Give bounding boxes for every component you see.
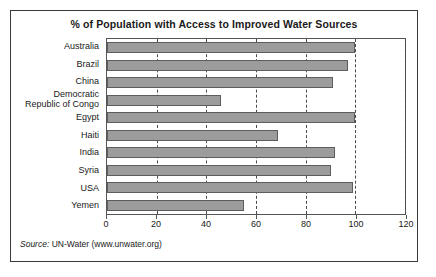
x-tick-label-100: 100 <box>348 219 363 229</box>
gridline-120 <box>405 39 406 214</box>
bar-row <box>107 92 405 110</box>
y-label-brazil: Brazil <box>11 56 103 74</box>
bar-australia <box>107 42 355 53</box>
x-tick-label-20: 20 <box>151 219 161 229</box>
y-label-australia: Australia <box>11 38 103 56</box>
x-tick-label-0: 0 <box>103 219 108 229</box>
bar-row <box>107 162 405 180</box>
bar-row <box>107 197 405 215</box>
bar-haiti <box>107 130 278 141</box>
bar-usa <box>107 182 353 193</box>
bar-row <box>107 109 405 127</box>
bar-syria <box>107 165 331 176</box>
bar-row <box>107 57 405 75</box>
y-label-line: Yemen <box>71 201 99 211</box>
plot-area <box>106 38 406 215</box>
y-label-line: India <box>79 148 99 158</box>
y-label-india: India <box>11 144 103 162</box>
y-label-line: Australia <box>64 42 99 52</box>
bar-row <box>107 179 405 197</box>
y-label-democratic-republic-of-congo: DemocraticRepublic of Congo <box>11 91 103 109</box>
y-label-line: Haiti <box>81 131 99 141</box>
bar-brazil <box>107 60 348 71</box>
y-label-yemen: Yemen <box>11 197 103 215</box>
y-label-line: Republic of Congo <box>25 100 99 110</box>
y-label-line: Egypt <box>76 113 99 123</box>
source-note: Source: UN-Water (www.unwater.org) <box>20 239 162 249</box>
y-label-line: USA <box>80 184 99 194</box>
bar-yemen <box>107 200 244 211</box>
bar-row <box>107 127 405 145</box>
y-label-syria: Syria <box>11 162 103 180</box>
bar-row <box>107 39 405 57</box>
bar-china <box>107 77 333 88</box>
x-tick-label-40: 40 <box>201 219 211 229</box>
y-label-line: China <box>75 77 99 87</box>
chart-figure: % of Population with Access to Improved … <box>10 10 418 262</box>
y-label-china: China <box>11 73 103 91</box>
x-axis-tick-labels: 020406080100120 <box>106 219 406 233</box>
bar-egypt <box>107 112 355 123</box>
source-label: Source: <box>20 239 49 249</box>
y-axis-category-labels: AustraliaBrazilChinaDemocraticRepublic o… <box>11 38 103 215</box>
bar-democratic-republic-of-congo <box>107 95 221 106</box>
source-text: UN-Water (www.unwater.org) <box>49 239 162 249</box>
chart-title: % of Population with Access to Improved … <box>11 18 417 30</box>
y-label-line: Syria <box>78 166 99 176</box>
x-tick-label-60: 60 <box>251 219 261 229</box>
x-tick-label-80: 80 <box>301 219 311 229</box>
bar-row <box>107 74 405 92</box>
bar-series <box>107 39 405 214</box>
y-label-haiti: Haiti <box>11 126 103 144</box>
x-tick-label-120: 120 <box>398 219 413 229</box>
y-label-usa: USA <box>11 180 103 198</box>
y-label-egypt: Egypt <box>11 109 103 127</box>
bar-india <box>107 147 335 158</box>
y-label-line: Brazil <box>76 60 99 70</box>
bar-row <box>107 144 405 162</box>
